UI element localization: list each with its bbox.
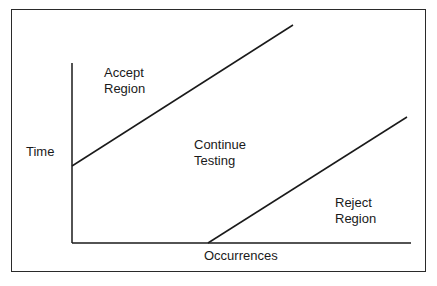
y-axis-label: Time (26, 144, 54, 160)
x-axis-label: Occurrences (204, 248, 278, 264)
reject-boundary-line (208, 117, 407, 243)
continue-testing-label: Continue Testing (194, 137, 246, 169)
accept-region-label: Accept Region (104, 65, 145, 97)
reject-region-label: Reject Region (335, 195, 376, 227)
